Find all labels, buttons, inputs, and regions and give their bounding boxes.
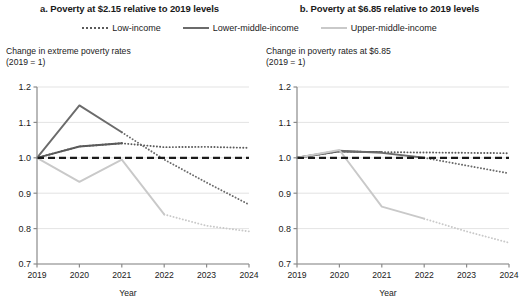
series-line-projection (424, 219, 509, 243)
chart-panel-a: a. Poverty at $2.15 relative to 2019 lev… (0, 0, 259, 307)
y-tick-label: 0.9 (278, 189, 291, 199)
x-tick-label: 2022 (415, 270, 434, 280)
y-tick-label: 1.1 (278, 118, 291, 128)
x-tick-label: 2023 (457, 270, 476, 280)
panel-a-xaxis-label: Year (18, 288, 238, 298)
panel-b-plot: 1.21.11.00.90.80.72019202020212022202320… (260, 0, 519, 307)
y-tick-label: 0.7 (278, 259, 291, 269)
series-line-actual (297, 150, 424, 219)
y-tick-label: 1.2 (18, 82, 31, 92)
series-line-actual (37, 143, 122, 158)
panel-a-plot-svg: 1.21.11.00.90.80.72019202020212022202320… (0, 0, 259, 307)
x-tick-label: 2020 (70, 270, 89, 280)
x-tick-label: 2024 (499, 270, 518, 280)
chart-panel-b: b. Poverty at $6.85 relative to 2019 lev… (260, 0, 519, 307)
series-line-actual (37, 158, 164, 215)
x-tick-label: 2020 (330, 270, 349, 280)
y-tick-label: 1.0 (18, 153, 31, 163)
y-tick-label: 1.2 (278, 82, 291, 92)
x-tick-label: 2024 (239, 270, 258, 280)
series-line-projection (382, 152, 509, 153)
y-tick-label: 0.9 (18, 189, 31, 199)
y-tick-label: 0.7 (18, 259, 31, 269)
y-tick-label: 0.8 (18, 224, 31, 234)
x-tick-label: 2019 (27, 270, 46, 280)
x-tick-label: 2021 (372, 270, 391, 280)
x-tick-label: 2022 (155, 270, 174, 280)
panel-a-plot: 1.21.11.00.90.80.72019202020212022202320… (0, 0, 259, 307)
y-tick-label: 1.1 (18, 118, 31, 128)
x-tick-label: 2019 (287, 270, 306, 280)
y-tick-label: 1.0 (278, 153, 291, 163)
x-tick-label: 2023 (197, 270, 216, 280)
series-line-projection (122, 132, 249, 204)
series-line-actual (37, 105, 122, 157)
y-tick-label: 0.8 (278, 224, 291, 234)
panel-b-plot-svg: 1.21.11.00.90.80.72019202020212022202320… (260, 0, 519, 307)
series-line-actual-dotted (37, 143, 122, 158)
x-tick-label: 2021 (112, 270, 131, 280)
panel-b-xaxis-label: Year (278, 288, 498, 298)
series-line-projection (424, 158, 509, 174)
